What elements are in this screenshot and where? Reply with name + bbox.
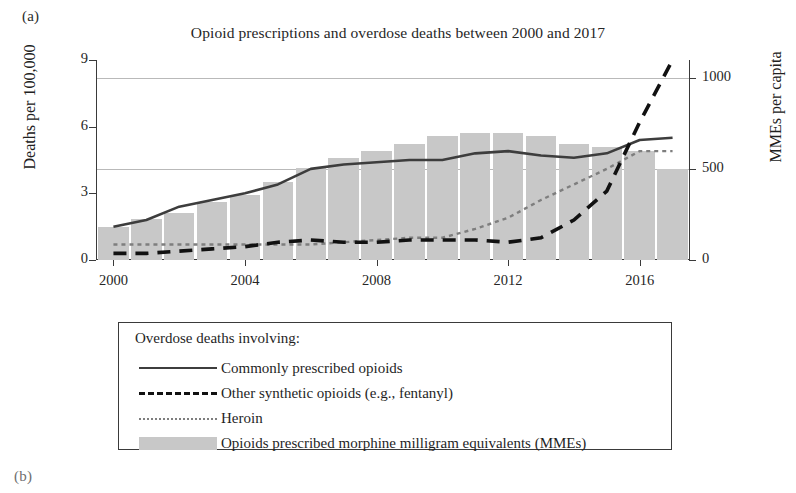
x-axis-tick-label: 2012 (494, 272, 523, 289)
left-axis-tick-label: 0 (48, 250, 88, 267)
left-axis-tick-label: 6 (48, 117, 88, 134)
x-axis-tick-label: 2004 (231, 272, 260, 289)
commonly-prescribed-opioids-line (113, 138, 672, 227)
right-axis-tick-label: 1000 (702, 68, 762, 85)
x-axis-tick-label: 2000 (99, 272, 128, 289)
plot-area (97, 60, 689, 260)
legend-item: Other synthetic opioids (e.g., fentanyl) (135, 382, 453, 404)
right-axis-title: MMEs per capita (767, 7, 785, 207)
dotted-line-key (135, 411, 221, 425)
left-axis-title: Deaths per 100,000 (21, 7, 39, 207)
right-axis-tick (689, 260, 696, 261)
legend-box: Overdose deaths involving: Commonly pres… (118, 322, 672, 450)
x-axis-tick (245, 259, 246, 266)
solid-line-key-mark (139, 367, 217, 369)
solid-line-key (135, 361, 221, 375)
legend-title: Overdose deaths involving: (135, 330, 300, 347)
legend-item-label: Other synthetic opioids (e.g., fentanyl) (221, 385, 453, 402)
dotted-line-key-mark (139, 418, 217, 420)
x-axis-tick-label: 2016 (625, 272, 654, 289)
chart-title: Opioid prescriptions and overdose deaths… (0, 24, 796, 42)
dashed-line-key-mark (139, 392, 217, 395)
x-axis-tick-label: 2008 (362, 272, 391, 289)
left-axis-tick (89, 260, 96, 261)
left-axis-tick-label: 3 (48, 183, 88, 200)
right-axis-tick-label: 500 (702, 159, 762, 176)
dashed-line-key (135, 386, 221, 400)
bar-swatch-key (135, 436, 221, 450)
left-axis-tick (89, 127, 96, 128)
right-axis-tick (689, 169, 696, 170)
x-axis-tick (113, 259, 114, 266)
legend-item: Opioids prescribed morphine milligram eq… (135, 432, 586, 454)
heroin-line (113, 151, 672, 244)
line-series-group (97, 60, 689, 260)
legend-item: Heroin (135, 407, 263, 429)
left-axis-tick (89, 60, 96, 61)
legend-item: Commonly prescribed opioids (135, 357, 403, 379)
left-axis-tick-label: 9 (48, 50, 88, 67)
right-axis-line (689, 60, 690, 260)
left-axis-tick (89, 193, 96, 194)
panel-label-b: (b) (14, 468, 32, 485)
x-axis-tick (640, 259, 641, 266)
right-axis-tick-label: 0 (702, 250, 762, 267)
bar-swatch-key-mark (139, 437, 217, 450)
figure-panel-a: (a) (b) Opioid prescriptions and overdos… (0, 0, 796, 493)
legend-item-label: Opioids prescribed morphine milligram eq… (221, 435, 586, 452)
x-axis-tick (377, 259, 378, 266)
legend-item-label: Heroin (221, 410, 263, 427)
legend-item-label: Commonly prescribed opioids (221, 360, 403, 377)
x-axis-tick (508, 259, 509, 266)
right-axis-tick (689, 78, 696, 79)
